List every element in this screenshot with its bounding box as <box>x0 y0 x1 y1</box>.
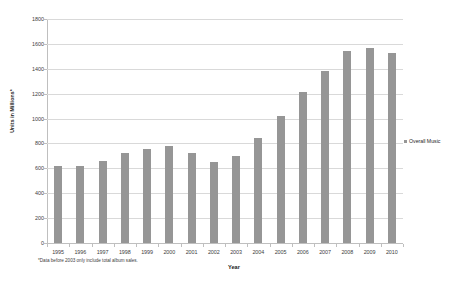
x-axis-tick-mark <box>47 244 48 247</box>
y-axis-tick-mark <box>44 193 47 194</box>
y-axis-tick-mark <box>44 119 47 120</box>
x-axis-tick-mark <box>69 244 70 247</box>
x-axis-tick-label: 2010 <box>372 249 412 255</box>
x-axis-tick-mark <box>359 244 360 247</box>
x-axis-tick-mark <box>136 244 137 247</box>
x-axis-title: Year <box>0 264 468 270</box>
chart-footnote: *Data before 2003 only include total alb… <box>38 258 138 263</box>
y-axis-tick-label: 400 <box>14 190 44 196</box>
x-axis-tick-mark <box>381 244 382 247</box>
bar-chart: Units in Millions* 020040060080010001200… <box>0 0 468 281</box>
x-axis-tick-mark <box>114 244 115 247</box>
y-axis-tick-mark <box>44 69 47 70</box>
bar[interactable] <box>165 146 173 243</box>
y-axis-tick-label: 1200 <box>14 91 44 97</box>
bar-slot <box>292 19 314 243</box>
y-axis-tick-label: 0 <box>14 240 44 246</box>
bar-slot <box>92 19 114 243</box>
y-axis-tick-mark <box>44 44 47 45</box>
x-axis-tick-mark <box>314 244 315 247</box>
legend-swatch-icon <box>404 140 407 143</box>
bar[interactable] <box>54 166 62 243</box>
bar[interactable] <box>343 51 351 243</box>
y-axis-tick-mark <box>44 94 47 95</box>
y-axis-tick-mark <box>44 168 47 169</box>
bar-slot <box>359 19 381 243</box>
x-axis-tick-mark <box>158 244 159 247</box>
y-axis-tick-label: 1600 <box>14 41 44 47</box>
bar-slot <box>136 19 158 243</box>
bar-slot <box>114 19 136 243</box>
bar-slot <box>314 19 336 243</box>
x-axis-tick-mark <box>203 244 204 247</box>
bar-slot <box>47 19 69 243</box>
bar[interactable] <box>254 138 262 243</box>
legend-label: Overall Music <box>409 138 440 144</box>
bar[interactable] <box>210 162 218 244</box>
x-axis-tick-mark <box>270 244 271 247</box>
y-axis-tick-mark <box>44 143 47 144</box>
bar-slot <box>181 19 203 243</box>
x-axis-tick-mark <box>403 244 404 247</box>
chart-legend: Overall Music <box>404 138 440 144</box>
bar[interactable] <box>99 161 107 243</box>
bar[interactable] <box>232 156 240 243</box>
y-axis-tick-label: 200 <box>14 215 44 221</box>
y-axis-tick-mark <box>44 19 47 20</box>
bar-slot <box>247 19 269 243</box>
bar[interactable] <box>277 116 285 243</box>
x-axis-tick-mark <box>292 244 293 247</box>
x-axis-tick-mark <box>336 244 337 247</box>
x-axis-tick-mark <box>247 244 248 247</box>
bar[interactable] <box>76 166 84 243</box>
bar[interactable] <box>143 149 151 243</box>
y-axis-tick-label: 1000 <box>14 116 44 122</box>
y-axis-tick-label: 600 <box>14 165 44 171</box>
bar[interactable] <box>366 48 374 243</box>
bar[interactable] <box>121 153 129 243</box>
bar-slot <box>225 19 247 243</box>
bar[interactable] <box>299 92 307 243</box>
bar[interactable] <box>188 153 196 243</box>
y-axis-tick-label: 800 <box>14 140 44 146</box>
bar-series-overall-music <box>47 19 403 243</box>
bar-slot <box>158 19 180 243</box>
x-axis-tick-mark <box>225 244 226 247</box>
bar-slot <box>270 19 292 243</box>
bar-slot <box>381 19 403 243</box>
bar-slot <box>336 19 358 243</box>
y-axis-tick-mark <box>44 218 47 219</box>
x-axis-tick-mark <box>92 244 93 247</box>
y-axis-tick-labels: 020040060080010001200140016001800 <box>11 19 44 243</box>
x-axis-tick-mark <box>181 244 182 247</box>
bar-slot <box>69 19 91 243</box>
y-axis-tick-label: 1800 <box>14 16 44 22</box>
bar-slot <box>203 19 225 243</box>
y-axis-tick-label: 1400 <box>14 66 44 72</box>
bar[interactable] <box>321 71 329 243</box>
bar[interactable] <box>388 53 396 243</box>
